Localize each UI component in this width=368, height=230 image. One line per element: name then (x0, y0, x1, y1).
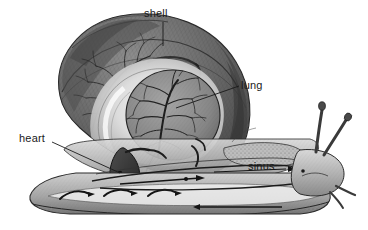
snail-anatomy-figure: shell lung heart sinus (0, 0, 368, 230)
label-shell: shell (144, 8, 168, 19)
head-and-tentacles (291, 102, 355, 208)
foot-structure (25, 170, 337, 220)
snail-illustration (0, 0, 368, 230)
label-sinus: sinus (248, 161, 275, 172)
label-heart: heart (19, 133, 45, 144)
label-lung: lung (241, 80, 263, 91)
